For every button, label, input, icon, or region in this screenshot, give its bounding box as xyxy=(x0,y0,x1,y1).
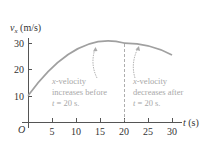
x-tick-label-25: 25 xyxy=(143,126,153,137)
y-axis-title: vx (m/s) xyxy=(10,22,41,35)
x-tick-label-20: 20 xyxy=(119,126,129,137)
svg-text:x-velocity: x-velocity xyxy=(132,76,168,86)
x-ticks xyxy=(53,118,173,122)
svg-text:t = 20 s.: t = 20 s. xyxy=(52,98,79,108)
y-tick-label-20: 20 xyxy=(14,64,24,75)
svg-text:increases before: increases before xyxy=(52,87,107,97)
arrowhead-left-icon xyxy=(93,47,98,52)
arrow-right xyxy=(133,48,138,78)
x-tick-label-5: 5 xyxy=(50,126,55,137)
annotation-decreases: x-velocity decreases after t = 20 s. xyxy=(132,76,183,108)
annotation-increases: x-velocity increases before t = 20 s. xyxy=(51,76,107,108)
arrow-left xyxy=(93,49,97,78)
x-tick-label-30: 30 xyxy=(167,126,177,137)
velocity-time-chart: 30 20 10 5 10 15 20 25 30 O vx (m/s) t (… xyxy=(0,0,206,148)
origin-label: O xyxy=(18,124,25,135)
x-axis-title: t (s) xyxy=(183,117,199,129)
x-tick-label-15: 15 xyxy=(95,126,105,137)
y-tick-label-30: 30 xyxy=(14,38,24,49)
svg-text:x-velocity: x-velocity xyxy=(51,76,87,86)
svg-text:decreases after: decreases after xyxy=(133,87,183,97)
svg-text:t = 20 s.: t = 20 s. xyxy=(133,98,160,108)
arrowhead-right-icon xyxy=(136,46,141,51)
x-tick-label-10: 10 xyxy=(71,126,81,137)
y-tick-label-10: 10 xyxy=(14,91,24,102)
